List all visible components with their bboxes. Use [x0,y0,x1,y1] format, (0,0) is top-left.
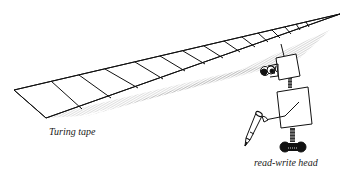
turing-machine-diagram [0,0,348,174]
read-write-head-robot [245,44,312,152]
read-write-head-label: read-write head [254,157,318,168]
robot-body [277,87,312,128]
pencil-icon [245,111,263,146]
tape-label: Turing tape [49,126,95,137]
robot-head [276,54,300,80]
robot-hand [262,116,268,122]
robot-wheels-icon [280,142,306,152]
